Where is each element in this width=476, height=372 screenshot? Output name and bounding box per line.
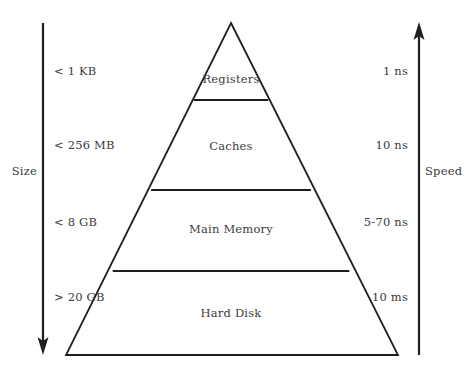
tier-label-hard-disk: Hard Disk xyxy=(201,306,262,320)
tier-label-main-memory: Main Memory xyxy=(189,222,273,236)
memory-hierarchy-diagram: Registers Caches Main Memory Hard Disk <… xyxy=(0,0,476,372)
speed-value-main-memory: 5-70 ns xyxy=(364,215,408,229)
speed-value-caches: 10 ns xyxy=(375,138,408,152)
size-axis-title: Size xyxy=(12,164,37,178)
speed-value-registers: 1 ns xyxy=(383,64,408,78)
size-value-registers: < 1 KB xyxy=(54,64,97,78)
speed-value-hard-disk: 10 ms xyxy=(372,290,408,304)
size-value-hard-disk: > 20 GB xyxy=(54,290,105,304)
speed-axis-title: Speed xyxy=(425,164,462,178)
tier-label-caches: Caches xyxy=(209,139,252,153)
size-value-caches: < 256 MB xyxy=(54,138,115,152)
tier-label-registers: Registers xyxy=(202,72,259,86)
size-value-main-memory: < 8 GB xyxy=(54,215,97,229)
